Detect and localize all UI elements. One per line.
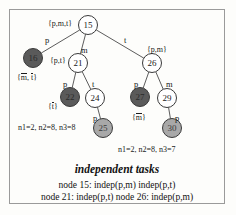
tree-node-29[interactable]: 29 (157, 88, 177, 108)
lbl-27: {m} (132, 113, 146, 122)
tree-node-22[interactable]: 22 (60, 87, 80, 107)
lbl-22: {t} (48, 102, 58, 111)
tree-node-label: 27 (136, 93, 145, 102)
set-bracket: } (142, 113, 146, 122)
edge-21-24 (82, 72, 91, 90)
tree-node-label: 24 (91, 94, 100, 103)
annotation-right: n1=2, n2=8, n3=7 (118, 146, 176, 154)
edge-21-22 (72, 72, 76, 88)
lbl-16: {m, t} (17, 73, 37, 82)
set-26: {p,m} (147, 46, 167, 54)
edge-lbl-15-26: t (124, 36, 126, 45)
tree-node-label: 15 (84, 21, 93, 30)
tree-node-label: 30 (168, 124, 177, 133)
set-21: {p,t} (50, 57, 66, 65)
caption-line-1: node 15: indep(p,m) indep(p,t) (9, 180, 225, 190)
edge-lbl-29-30: p (175, 114, 179, 123)
tree-node-label: 26 (148, 59, 157, 68)
edge-lines (41, 30, 170, 119)
tree-node-label: 21 (74, 59, 83, 68)
tree-node-label: 22 (66, 93, 75, 102)
edge-24-25 (97, 107, 100, 119)
tree-node-26[interactable]: 26 (142, 53, 162, 73)
edge-26-29 (156, 72, 164, 90)
set-15: {p,m,t} (48, 20, 72, 28)
edge-26-27 (143, 72, 149, 88)
edge-15-26 (96, 30, 144, 58)
tree-node-27[interactable]: 27 (130, 87, 150, 107)
tree-node-label: 29 (163, 94, 172, 103)
edge-lbl-21-24: t (92, 80, 94, 89)
edge-lbl-21-22: p (63, 80, 67, 89)
edge-lbl-26-29: m (166, 80, 173, 89)
tree-node-label: 16 (29, 54, 38, 63)
tree-node-24[interactable]: 24 (85, 88, 105, 108)
edge-lbl-24-25: p (93, 114, 97, 123)
tree-node-label: 25 (99, 124, 108, 133)
tree-node-15[interactable]: 15 (78, 15, 98, 35)
set-bracket: } (54, 102, 58, 111)
diagram-page: 15162126222427292530 {p,m,t}{p,t}{p,m} {… (0, 0, 236, 215)
caption-line-2: node 21: indep(p,t) node 26: indep(p,m) (9, 192, 225, 202)
set-bracket: } (33, 73, 37, 82)
edge-lbl-26-27: p (134, 80, 138, 89)
edge-lbl-15-21: m (81, 46, 88, 55)
tree-node-21[interactable]: 21 (68, 53, 88, 73)
edge-lbl-15-16: p (45, 36, 49, 45)
annotation-left: n1=2, n2=8, n3=8 (18, 124, 76, 132)
edge-29-30 (169, 107, 171, 118)
diagram-title: independent tasks (9, 163, 225, 175)
tree-node-16[interactable]: 16 (23, 48, 43, 68)
